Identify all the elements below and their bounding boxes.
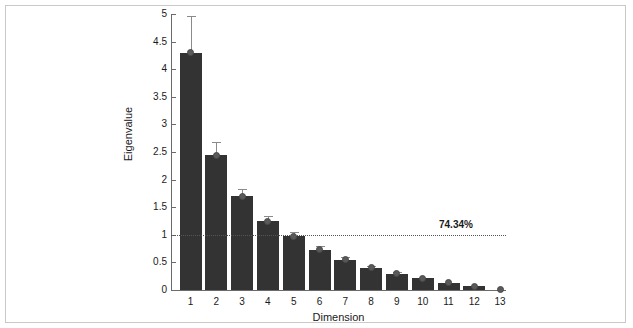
y-axis-title: Eigenvalue (122, 89, 134, 179)
y-tick-label: 1 (135, 230, 167, 240)
y-tick-label: 3.5 (135, 92, 167, 102)
x-tick-label: 3 (228, 296, 256, 307)
y-tick-label: 0 (135, 285, 167, 295)
error-bar-stem (191, 16, 192, 52)
y-tick-label: 4 (135, 64, 167, 74)
scree-plot: 00.511.522.533.544.55 12345678910111213 … (0, 0, 633, 328)
y-tick-mark (172, 180, 176, 181)
x-tick-label: 5 (280, 296, 308, 307)
x-tick-label: 4 (254, 296, 282, 307)
data-point-marker (471, 283, 478, 290)
y-tick-mark (172, 14, 176, 15)
y-tick-mark (172, 290, 176, 291)
bar (334, 260, 356, 290)
y-tick-label: 0.5 (135, 257, 167, 267)
bar (205, 155, 227, 290)
x-tick-label: 11 (435, 296, 463, 307)
y-tick-mark (172, 69, 176, 70)
error-bar-cap (264, 216, 273, 217)
error-bar-cap (212, 142, 221, 143)
bar (231, 196, 253, 290)
y-tick-mark (172, 124, 176, 125)
y-tick-label: 3 (135, 119, 167, 129)
data-point-marker (342, 256, 349, 263)
figure-container: 00.511.522.533.544.55 12345678910111213 … (0, 0, 633, 328)
y-tick-label: 4.5 (135, 37, 167, 47)
y-tick-mark (172, 42, 176, 43)
bar (283, 236, 305, 290)
error-bar-cap (238, 189, 247, 190)
x-axis-title: Dimension (171, 311, 506, 323)
threshold-line (171, 235, 506, 236)
x-tick-label: 7 (331, 296, 359, 307)
y-tick-mark (172, 97, 176, 98)
y-tick-label: 1.5 (135, 202, 167, 212)
x-tick-label: 2 (202, 296, 230, 307)
data-point-marker (213, 152, 220, 159)
x-tick-label: 8 (357, 296, 385, 307)
x-tick-label: 6 (306, 296, 334, 307)
x-tick-label: 13 (486, 296, 514, 307)
threshold-label: 74.34% (439, 219, 473, 230)
y-tick-mark (172, 207, 176, 208)
y-tick-mark (172, 262, 176, 263)
data-point-marker (497, 286, 504, 293)
x-tick-label: 10 (409, 296, 437, 307)
x-axis-line (171, 290, 506, 291)
y-tick-label: 5 (135, 9, 167, 19)
y-tick-label: 2.5 (135, 147, 167, 157)
bar (360, 268, 382, 290)
bar (180, 53, 202, 290)
x-tick-label: 9 (383, 296, 411, 307)
x-tick-label: 1 (177, 296, 205, 307)
bar (309, 250, 331, 290)
data-point-marker (368, 264, 375, 271)
y-tick-label: 2 (135, 175, 167, 185)
y-tick-mark (172, 152, 176, 153)
error-bar-cap (187, 16, 196, 17)
x-tick-label: 12 (460, 296, 488, 307)
data-point-marker (239, 193, 246, 200)
bar (257, 221, 279, 290)
data-point-marker (264, 218, 271, 225)
